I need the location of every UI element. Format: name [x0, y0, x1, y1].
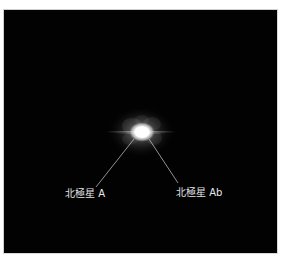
label-polaris-a: 北極星 A [65, 188, 105, 200]
polaris-star-image [4, 10, 278, 254]
star-photo-frame: 北極星 A 北極星 Ab [3, 9, 278, 254]
star-core [129, 122, 155, 142]
label-polaris-ab: 北極星 Ab [176, 187, 222, 199]
figure-page: 北極星 A 北極星 Ab [0, 0, 281, 261]
